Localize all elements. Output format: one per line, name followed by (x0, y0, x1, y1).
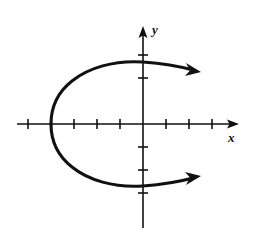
x-axis-label: x (227, 130, 235, 145)
y-axis-label: y (150, 22, 158, 37)
graph-canvas: y x (0, 0, 254, 248)
parabola-figure: y x (0, 0, 254, 248)
